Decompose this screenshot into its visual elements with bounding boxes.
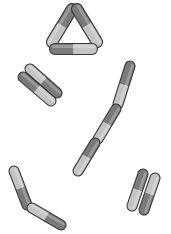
rod-bacterium bbox=[25, 201, 68, 232]
group-triangle bbox=[44, 1, 104, 54]
rod-bacterium bbox=[71, 136, 102, 178]
bacteria-illustration bbox=[0, 0, 171, 234]
group-chain bbox=[71, 60, 136, 178]
group-parallel-pair-left bbox=[16, 62, 64, 108]
rod-bacterium bbox=[69, 1, 104, 49]
group-bent-pair bbox=[8, 165, 68, 232]
group-parallel-pair-right bbox=[126, 168, 162, 217]
rod-bacterium bbox=[112, 60, 137, 111]
rod-bacterium bbox=[50, 44, 98, 55]
bacteria-groups bbox=[8, 1, 162, 231]
